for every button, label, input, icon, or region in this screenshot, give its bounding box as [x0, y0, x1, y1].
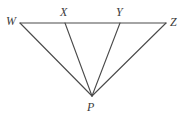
- vertex-label-x: X: [60, 6, 67, 18]
- segment-wp: [20, 23, 92, 96]
- segment-yp: [92, 23, 120, 96]
- geometry-figure: W X Y Z P: [0, 0, 186, 119]
- vertex-label-y: Y: [116, 6, 123, 18]
- vertex-label-p: P: [87, 101, 94, 113]
- vertex-label-z: Z: [170, 16, 177, 28]
- segment-zp: [92, 23, 166, 96]
- segment-xp: [65, 23, 92, 96]
- vertex-label-w: W: [6, 15, 16, 27]
